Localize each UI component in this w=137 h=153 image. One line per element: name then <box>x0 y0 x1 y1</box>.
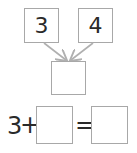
whole-box-blank[interactable] <box>51 61 86 95</box>
sum-blank-box[interactable] <box>91 106 128 144</box>
addend-2-blank-box[interactable] <box>36 106 73 144</box>
